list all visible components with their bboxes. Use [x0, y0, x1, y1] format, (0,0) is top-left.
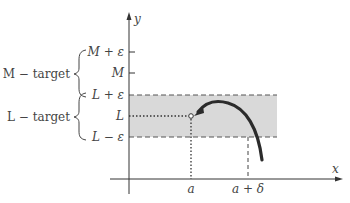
y-tick-label-m: M	[111, 66, 125, 80]
x-axis-arrow-icon	[335, 177, 343, 182]
x-tick-label-a-plus-delta: a + δ	[232, 182, 264, 196]
x-axis-label: x	[332, 162, 339, 176]
l-target-label: L − target	[7, 110, 70, 124]
m-target-text: M − target	[3, 67, 70, 81]
l-target-text: L − target	[7, 110, 70, 124]
y-tick-label-l-plus-eps: L + ε	[91, 88, 124, 102]
y-axis-arrow-icon	[127, 12, 132, 20]
x-tick-label-a: a	[187, 182, 194, 196]
y-tick-label-l-minus-eps: L − ε	[91, 130, 124, 144]
limit-diagram: y x M + ε M L + ε L L − ε a a + δ M − ta…	[0, 0, 350, 203]
l-target-brace	[74, 93, 86, 140]
m-target-label: M − target	[3, 67, 70, 81]
open-circle-point	[189, 114, 194, 119]
y-axis-label: y	[133, 12, 141, 26]
m-target-brace	[74, 50, 86, 97]
y-tick-label-m-plus-eps: M + ε	[87, 45, 124, 59]
y-tick-label-l: L	[115, 109, 124, 123]
